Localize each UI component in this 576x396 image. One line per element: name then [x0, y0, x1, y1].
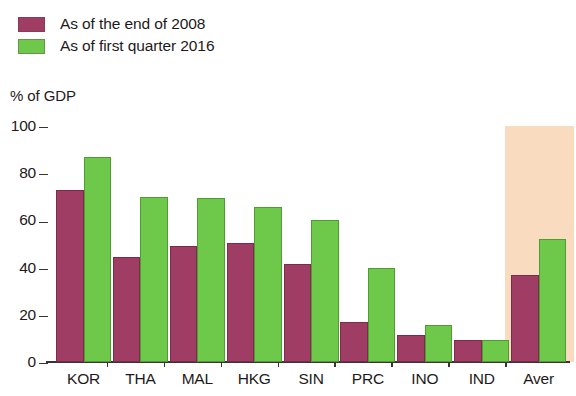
x-axis-tick — [221, 362, 223, 367]
bar-aver-2008 — [511, 275, 539, 362]
x-axis-tick — [448, 362, 450, 367]
x-axis-tick — [164, 362, 166, 367]
y-axis-tick-dash — [39, 127, 48, 128]
y-axis-tick-dash — [39, 363, 48, 364]
bar-mal-2016 — [197, 198, 225, 362]
x-axis-tick — [505, 362, 507, 367]
y-axis-tick-label: 60 — [19, 211, 36, 228]
y-axis-tick-100: 100 — [11, 117, 48, 135]
x-axis-tick — [107, 362, 109, 367]
bar-hkg-2008 — [227, 243, 255, 362]
y-axis-tick-label: 100 — [11, 117, 36, 134]
y-axis-tick-80: 80 — [19, 164, 48, 182]
bar-prc-2008 — [340, 322, 368, 362]
x-axis-label-aver: Aver — [503, 370, 574, 388]
bar-ind-2016 — [482, 340, 510, 362]
y-axis-caption: % of GDP — [10, 87, 76, 104]
bar-kor-2016 — [84, 157, 112, 362]
bar-ind-2008 — [454, 340, 482, 362]
bar-ino-2008 — [397, 335, 425, 362]
x-axis-tick — [334, 362, 336, 367]
y-axis-tick-60: 60 — [19, 211, 48, 229]
y-axis-tick-20: 20 — [19, 306, 48, 324]
bar-aver-2016 — [539, 239, 567, 362]
bar-chart: As of the end of 2008 As of first quarte… — [0, 0, 576, 396]
y-axis-tick-label: 80 — [19, 164, 36, 181]
y-axis-tick-label: 0 — [28, 353, 36, 370]
legend-swatch-2008 — [18, 17, 45, 32]
y-axis-tick-dash — [39, 222, 48, 223]
bar-kor-2008 — [56, 190, 84, 362]
plot-inner: 020406080100 — [52, 126, 570, 362]
y-axis-tick-label: 40 — [19, 259, 36, 276]
y-axis-tick-40: 40 — [19, 259, 48, 277]
legend-item-2008: As of the end of 2008 — [18, 13, 214, 35]
x-axis-tick — [278, 362, 280, 367]
y-axis-tick-label: 20 — [19, 306, 36, 323]
bar-hkg-2016 — [254, 207, 282, 362]
legend-label-2016: As of first quarter 2016 — [60, 38, 214, 54]
y-axis-tick-0: 0 — [28, 353, 48, 371]
plot-area: 020406080100 — [52, 126, 570, 362]
bar-prc-2016 — [368, 268, 396, 362]
bar-sin-2008 — [284, 264, 312, 362]
x-axis-tick — [391, 362, 393, 367]
bar-tha-2008 — [113, 257, 141, 362]
legend-swatch-2016 — [18, 39, 45, 54]
y-axis-tick-dash — [39, 174, 48, 175]
bar-tha-2016 — [140, 197, 168, 362]
legend-label-2008: As of the end of 2008 — [60, 16, 205, 32]
chart-legend: As of the end of 2008 As of first quarte… — [18, 13, 214, 57]
y-axis-tick-dash — [39, 269, 48, 270]
bar-mal-2008 — [170, 246, 198, 362]
bar-sin-2016 — [311, 220, 339, 362]
bar-ino-2016 — [425, 325, 453, 362]
legend-item-2016: As of first quarter 2016 — [18, 35, 214, 57]
y-axis-tick-dash — [39, 316, 48, 317]
